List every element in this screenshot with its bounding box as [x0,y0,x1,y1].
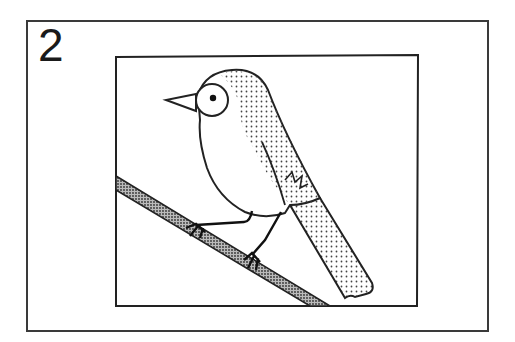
bird-illustration [0,0,515,342]
bird-tail [290,198,373,298]
bird-head [166,84,228,116]
beak [166,94,196,111]
eye-icon [210,95,216,101]
